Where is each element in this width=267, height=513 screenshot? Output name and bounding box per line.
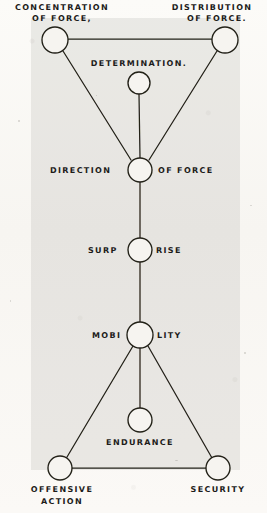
node-offensive-action (48, 456, 72, 480)
label-distribution-line2: OF FORCE. (187, 13, 247, 24)
node-distribution-of-force (212, 27, 238, 53)
label-surprise-left: SURP (88, 245, 118, 256)
node-determination (128, 72, 150, 94)
label-concentration-line1: CONCENTRATION (15, 2, 109, 13)
label-offensive-line2: ACTION (41, 496, 83, 507)
label-endurance: ENDURANCE (106, 437, 174, 448)
node-security (206, 456, 230, 480)
node-concentration-of-force (42, 27, 68, 53)
figure-page: CONCENTRATION OF FORCE, DISTRIBUTION OF … (0, 0, 267, 513)
label-mobility-right: LITY (157, 330, 182, 341)
label-direction-right: OF FORCE (158, 165, 214, 176)
label-distribution-line1: DISTRIBUTION (172, 2, 253, 13)
label-surprise-right: RISE (156, 245, 182, 256)
label-security: SECURITY (191, 484, 246, 495)
node-mobility (127, 322, 153, 348)
label-concentration-line2: OF FORCE, (32, 13, 92, 24)
label-direction-left: DIRECTION (50, 165, 111, 176)
node-direction-of-force (128, 158, 152, 182)
node-surprise (128, 238, 152, 262)
label-mobility-left: MOBI (92, 330, 121, 341)
edge-determination-direction (139, 94, 140, 158)
label-determination: DETERMINATION. (91, 58, 187, 69)
label-offensive-line1: OFFENSIVE (31, 484, 93, 495)
node-endurance (128, 408, 152, 432)
